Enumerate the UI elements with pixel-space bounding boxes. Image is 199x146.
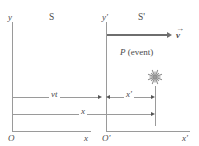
vector-arrow-accent: → [176,25,184,33]
reference-frame-diagram: y S O x y' S' O' x' → v P (event) vt x' [0,0,199,146]
event-qualifier: (event) [128,47,153,57]
event-drop-line [155,86,156,126]
vt-arrowhead [98,95,102,99]
origin-o-label: O [8,134,15,143]
x-prime-label: x' [124,90,134,99]
origin-o-prime-label: O' [102,134,110,143]
x-prime-axis-line [106,131,190,132]
x-axis-tip-label: x [84,134,88,143]
vt-label: vt [49,90,60,99]
event-label: P (event) [120,48,153,57]
velocity-arrowhead [167,32,172,38]
x-prime-axis-tip-label: x' [182,134,188,143]
y-prime-axis-label: y' [102,13,108,22]
y-axis-line [12,22,13,132]
x-axis-line [12,131,91,132]
x-prime-arrowhead-right [151,95,155,99]
x-arrowhead [151,112,155,116]
frame-s-prime-label: S' [138,13,145,23]
y-prime-axis-line [106,22,107,132]
velocity-arrow-shaft [107,34,167,36]
frame-s-label: S [49,13,54,23]
event-point [154,76,157,79]
x-label: x [79,107,87,116]
x-prime-arrowhead-left [106,95,110,99]
velocity-vector-label: → v [176,31,180,40]
y-axis-label: y [8,13,12,22]
